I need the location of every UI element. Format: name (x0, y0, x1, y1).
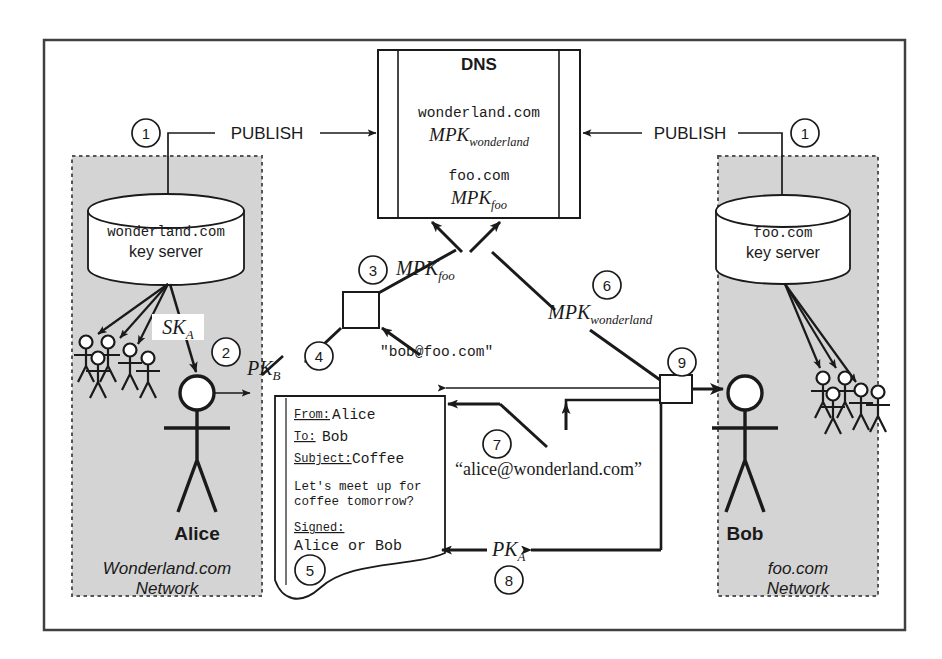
publish-left-label: PUBLISH (231, 124, 304, 143)
step-badge-1-right-text: 1 (801, 125, 809, 142)
bob-address-label: "bob@foo.com" (380, 344, 493, 360)
bob-pk-derivation-box (343, 292, 379, 328)
step-badge-6-text: 6 (603, 277, 611, 294)
dns-entry-1-key-sub: foo (491, 198, 507, 212)
step-badge-8-text: 8 (505, 572, 513, 589)
decrypt-box (660, 375, 692, 403)
pk-a-key: PK (491, 538, 519, 560)
email-signed-value: Alice or Bob (294, 538, 402, 555)
sk-a-key: SK (162, 316, 187, 338)
diagram-canvas: DNS wonderland.com MPKwonderland foo.com… (0, 0, 942, 659)
left-key-server-domain: wonderland.com (107, 224, 225, 240)
mpk-wonderland-sub: wonderland (590, 312, 653, 327)
pk-b-sub: B (273, 368, 281, 383)
email-signed-label: Signed: (294, 521, 344, 535)
dns-entry-0-key-main: MPK (428, 124, 470, 145)
dns-entry-0-key-sub: wonderland (469, 135, 529, 149)
right-network-label-line2: Network (767, 579, 831, 598)
email-field-2-value: Coffee (352, 451, 404, 467)
step-badge-3-text: 3 (369, 262, 377, 279)
step-badge-5-text: 5 (306, 562, 314, 579)
alice-address-label: “alice@wonderland.com” (455, 459, 642, 479)
right-network-label-line1: foo.com (768, 559, 828, 578)
sk-a-sub: A (185, 327, 194, 342)
left-network-label-line1: Wonderland.com (103, 559, 232, 578)
email-field-0-value: Alice (332, 407, 376, 423)
email-field-2-label: Subject: (294, 452, 352, 466)
mpk-foo-key: MPK (395, 257, 440, 279)
alice-label: Alice (174, 523, 219, 544)
dns-entry-1-key-main: MPK (450, 187, 492, 208)
bob-label: Bob (727, 523, 764, 544)
pk-a-sub: A (517, 549, 526, 564)
email-body-line2: coffee tomorrow? (294, 495, 414, 509)
dns-entry-1-domain: foo.com (449, 168, 510, 184)
email-field-0-label: From: (294, 408, 330, 422)
protocol-diagram: DNS wonderland.com MPKwonderland foo.com… (0, 0, 942, 659)
step-badge-7-text: 7 (493, 436, 501, 453)
email-body-line1: Let's meet up for (294, 480, 422, 494)
dns-entry-0-domain: wonderland.com (418, 105, 540, 121)
step-badge-4-text: 4 (315, 348, 323, 365)
email-field-1-label: To: (294, 430, 316, 444)
mpk-wonderland-key: MPK (547, 301, 592, 323)
step-badge-2-text: 2 (222, 344, 230, 361)
email-field-1-value: Bob (322, 429, 348, 445)
left-network-label-line2: Network (136, 579, 200, 598)
dns-title: DNS (461, 55, 497, 74)
step-badge-9-text: 9 (678, 354, 686, 371)
mpk-foo-sub: foo (438, 268, 455, 283)
right-key-server-role: key server (746, 244, 820, 261)
step-badge-1-left-text: 1 (142, 125, 150, 142)
left-key-server-role: key server (129, 243, 203, 260)
publish-right-label: PUBLISH (654, 124, 727, 143)
right-key-server-domain: foo.com (754, 225, 813, 241)
